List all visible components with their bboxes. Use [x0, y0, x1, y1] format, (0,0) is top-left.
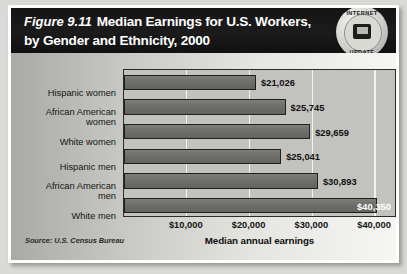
x-axis-ticks: $10,000$20,000$30,000$40,000: [123, 220, 396, 234]
bar-value-label: $29,659: [315, 126, 349, 137]
bar-value-label: $25,041: [286, 151, 320, 162]
category-label-hispanic-women: Hispanic women: [11, 89, 116, 99]
figure-header-band: Figure 9.11Median Earnings for U.S. Work…: [11, 8, 396, 53]
figure-title: Figure 9.11Median Earnings for U.S. Work…: [24, 12, 324, 50]
bar-row: $40,350: [124, 198, 395, 213]
bar-row: $21,026: [124, 75, 395, 90]
bar-row: $25,041: [124, 149, 395, 164]
bar-value-label: $40,350: [357, 200, 391, 211]
category-label-hispanic-men: Hispanic men: [11, 163, 116, 173]
figure-number: Figure 9.11: [24, 14, 92, 29]
x-axis-title: Median annual earnings: [123, 235, 396, 246]
bar-value-label: $30,893: [323, 175, 357, 186]
bar-row: $25,745: [124, 99, 395, 114]
bar-row: $30,893: [124, 173, 395, 188]
x-tick-label: $40,000: [357, 220, 391, 230]
figure-title-line1: Median Earnings for U.S. Workers,: [97, 14, 311, 29]
x-tick-label: $10,000: [169, 220, 203, 230]
plot-area: $21,026$25,745$29,659$25,041$30,893$40,3…: [123, 69, 396, 217]
bar-hispanic-men[interactable]: [124, 149, 281, 164]
bar-african-american-men[interactable]: [124, 173, 318, 188]
source-note: Source: U.S. Census Bureau: [25, 236, 124, 245]
category-label-african-american-men: African Americanmen: [11, 182, 116, 201]
seal-top-text: INTERNET: [336, 9, 388, 15]
figure-title-line2: by Gender and Ethnicity, 2000: [24, 33, 210, 48]
gridline-30000: [312, 70, 313, 216]
bar-value-label: $25,745: [291, 101, 325, 112]
gridline-20000: [249, 70, 250, 216]
chart-body: Hispanic womenAfrican AmericanwomenWhite…: [11, 53, 396, 260]
bar-african-american-women[interactable]: [124, 99, 286, 114]
x-tick-label: $30,000: [294, 220, 328, 230]
category-label-african-american-women: African Americanwomen: [11, 108, 116, 127]
category-label-white-men: White men: [11, 212, 116, 222]
bar-white-women[interactable]: [124, 124, 310, 139]
internet-update-seal[interactable]: INTERNET UPDATE: [336, 8, 388, 53]
category-axis-labels: Hispanic womenAfrican AmericanwomenWhite…: [11, 65, 116, 215]
category-label-white-women: White women: [11, 138, 116, 148]
gridline-40000: [374, 70, 375, 216]
bar-hispanic-women[interactable]: [124, 75, 256, 90]
x-tick-label: $20,000: [232, 220, 266, 230]
bar-value-label: $21,026: [261, 77, 295, 88]
gridline-10000: [186, 70, 187, 216]
figure-card: Figure 9.11Median Earnings for U.S. Work…: [8, 5, 399, 263]
bar-row: $29,659: [124, 124, 395, 139]
seal-text: INTERNET UPDATE: [336, 8, 388, 53]
bar-white-men[interactable]: [124, 198, 377, 213]
